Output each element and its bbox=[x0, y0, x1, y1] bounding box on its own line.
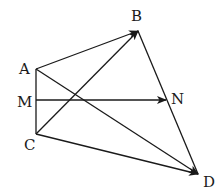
point-label-a: A bbox=[18, 60, 30, 78]
vector-cd bbox=[36, 134, 198, 174]
point-label-d: D bbox=[203, 173, 215, 191]
labels-layer: ABCMND bbox=[17, 7, 215, 191]
point-label-c: C bbox=[24, 136, 35, 154]
segment-bd bbox=[138, 31, 198, 174]
point-label-m: M bbox=[17, 93, 32, 111]
vector-diagram: ABCMND bbox=[0, 0, 224, 192]
point-label-n: N bbox=[171, 90, 184, 108]
diagram-svg: ABCMND bbox=[0, 0, 224, 192]
vector-ad bbox=[36, 69, 198, 174]
vector-ab bbox=[36, 31, 138, 69]
point-label-b: B bbox=[131, 7, 142, 25]
vector-cb bbox=[36, 31, 138, 134]
